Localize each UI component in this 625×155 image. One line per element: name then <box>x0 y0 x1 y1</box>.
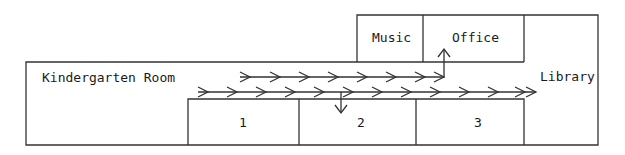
label-music: Music <box>372 30 411 46</box>
label-room-3: 3 <box>474 115 482 131</box>
label-library: Library <box>540 69 595 85</box>
label-room-1: 1 <box>239 115 247 131</box>
label-kindergarten-room: Kindergarten Room <box>42 70 175 86</box>
label-room-2: 2 <box>357 115 365 131</box>
label-office: Office <box>452 30 499 46</box>
